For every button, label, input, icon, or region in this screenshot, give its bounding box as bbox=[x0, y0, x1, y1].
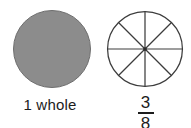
fraction-numerator: 3 bbox=[139, 94, 152, 111]
fraction-three-eighths: 3 8 bbox=[100, 94, 191, 128]
eighths-circle-diagram bbox=[106, 10, 184, 88]
fraction-denominator: 8 bbox=[139, 115, 152, 128]
figure-one-whole: 1 whole bbox=[4, 6, 96, 124]
center-dot bbox=[143, 47, 147, 51]
whole-caption-label: 1 whole bbox=[4, 96, 96, 113]
fraction-illustration: 1 whole 3 8 bbox=[0, 0, 191, 128]
shaded-whole-circle bbox=[13, 10, 91, 88]
figure-three-eighths: 3 8 bbox=[100, 6, 191, 128]
